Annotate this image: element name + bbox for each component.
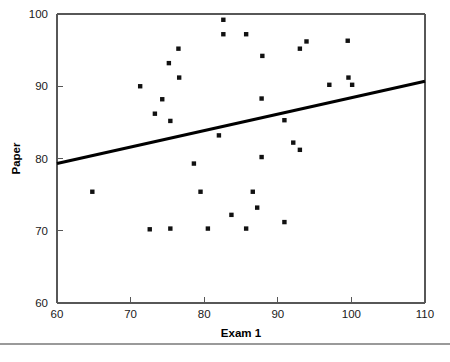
data-point	[291, 140, 295, 144]
data-point	[176, 46, 180, 50]
x-tick-label-70: 70	[124, 308, 137, 320]
data-point	[259, 155, 263, 159]
data-point	[350, 83, 354, 87]
chart-canvas: 6070809010060708090100110 Exam 1Paper	[0, 0, 450, 362]
x-tick-label-110: 110	[416, 308, 434, 320]
axes	[57, 14, 425, 303]
data-point	[346, 39, 350, 43]
data-point	[167, 61, 171, 65]
data-point	[217, 133, 221, 137]
x-tick-label-80: 80	[198, 308, 211, 320]
scatter-plot-figure: 6070809010060708090100110 Exam 1Paper	[0, 0, 450, 362]
data-point	[298, 148, 302, 152]
data-point	[327, 83, 331, 87]
data-point	[206, 226, 210, 230]
data-point	[168, 226, 172, 230]
data-point	[160, 97, 164, 101]
axis-ticks	[57, 86, 351, 303]
data-point	[244, 226, 248, 230]
data-point	[251, 190, 255, 194]
data-point	[168, 119, 172, 123]
axis-tick-labels: 6070809010060708090100110	[29, 8, 434, 320]
regression-line	[57, 81, 425, 163]
data-point	[346, 75, 350, 79]
data-point	[198, 190, 202, 194]
data-point	[90, 190, 94, 194]
y-tick-label-100: 100	[29, 8, 48, 20]
data-point	[229, 213, 233, 217]
data-point	[221, 32, 225, 36]
data-point	[153, 112, 157, 116]
y-axis-title: Paper	[10, 142, 22, 174]
data-point	[255, 205, 259, 209]
data-point	[282, 118, 286, 122]
regression-line-path	[57, 81, 425, 163]
data-point	[282, 220, 286, 224]
data-point	[148, 227, 152, 231]
x-tick-label-60: 60	[51, 308, 64, 320]
data-point	[177, 75, 181, 79]
data-point	[244, 32, 248, 36]
data-point	[221, 18, 225, 22]
y-tick-label-70: 70	[35, 225, 48, 237]
data-point	[138, 84, 142, 88]
y-tick-label-80: 80	[35, 153, 48, 165]
x-tick-label-90: 90	[271, 308, 284, 320]
data-point	[298, 46, 302, 50]
data-point	[304, 39, 308, 43]
x-axis-title: Exam 1	[221, 327, 262, 339]
data-points	[90, 18, 354, 232]
data-point	[259, 96, 263, 100]
y-tick-label-60: 60	[35, 297, 48, 309]
y-tick-label-90: 90	[35, 80, 48, 92]
data-point	[192, 161, 196, 165]
data-point	[260, 54, 264, 58]
x-tick-label-100: 100	[342, 308, 361, 320]
